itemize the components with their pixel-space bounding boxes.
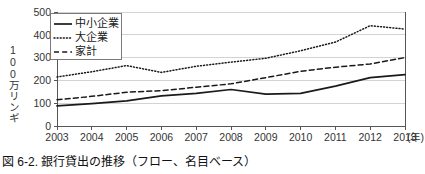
- x-tick-label: 2006: [150, 131, 174, 143]
- chart-legend: 中小企業大企業家計: [50, 13, 121, 59]
- y-tick-label: 100: [33, 97, 51, 109]
- y-tick-label: 500: [33, 6, 51, 18]
- figure-container: 0100200300400500 20032004200520062007200…: [0, 0, 425, 174]
- legend-label: 大企業: [75, 30, 108, 43]
- x-tick-label: 2007: [185, 131, 209, 143]
- y-tick-label: 200: [33, 74, 51, 86]
- legend-label: 家計: [75, 44, 97, 57]
- series-line-dashed: [57, 58, 405, 100]
- y-tick-label: 400: [33, 29, 51, 41]
- chart-plot-area: 0100200300400500 20032004200520062007200…: [0, 0, 425, 150]
- x-tick-label: 2010: [289, 131, 313, 143]
- x-tick-label: 2005: [115, 131, 139, 143]
- x-tick-label: 2012: [359, 131, 383, 143]
- y-tick-label: 300: [33, 51, 51, 63]
- line-chart: 0100200300400500 20032004200520062007200…: [0, 0, 425, 150]
- x-axis-unit-label: (年): [407, 131, 424, 143]
- x-tick-label: 2004: [80, 131, 104, 143]
- series-line-solid: [57, 75, 405, 106]
- x-tick-label: 2008: [219, 131, 243, 143]
- x-tick-label: 2003: [45, 131, 69, 143]
- legend-label: 中小企業: [75, 16, 119, 29]
- x-tick-label: 2009: [254, 131, 278, 143]
- y-tick-labels: 0100200300400500: [33, 6, 51, 132]
- x-tick-label: 2011: [324, 131, 347, 143]
- x-unit-label: (年): [407, 131, 424, 143]
- y-axis-label: 100万リンギ: [3, 44, 18, 124]
- x-tick-labels: 2003200420052006200720082009201020112012…: [45, 131, 417, 143]
- figure-caption: 図 6-2. 銀行貸出の推移（フロー、名目ベース）: [2, 152, 422, 169]
